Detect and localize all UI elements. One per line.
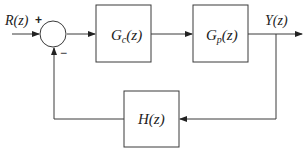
output-label: Y(z) — [265, 13, 288, 29]
minus-sign: − — [60, 46, 67, 60]
controller-label: Gc(z) — [111, 27, 142, 45]
input-label: R(z) — [4, 13, 29, 29]
plus-sign: + — [35, 13, 42, 27]
feedback-path-right — [180, 34, 276, 119]
plant-label: Gp(z) — [206, 27, 238, 45]
feedback-label: H(z) — [137, 111, 165, 128]
summing-junction — [40, 21, 66, 47]
block-diagram: R(z) + − Gc(z) Gp(z) H(z) Y(z) — [0, 0, 306, 153]
